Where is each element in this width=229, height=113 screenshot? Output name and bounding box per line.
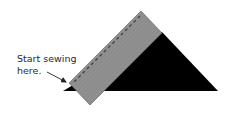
- sewing-diagram: Start sewing here.: [0, 0, 229, 113]
- start-sewing-label: Start sewing here.: [17, 53, 76, 77]
- label-line-1: Start sewing: [17, 53, 76, 65]
- label-line-2: here.: [17, 65, 76, 77]
